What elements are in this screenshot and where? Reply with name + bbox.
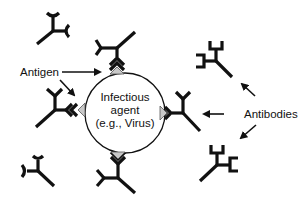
- bound-antibody-bottom: [97, 152, 135, 193]
- free-antibody-bottom-left: [22, 156, 54, 186]
- antigen-triangle-left: [78, 103, 85, 117]
- center-label-line3: (e.g., Virus): [95, 117, 154, 129]
- antigen-label: Antigen: [20, 66, 59, 78]
- center-label-line2: agent: [111, 104, 141, 116]
- antibodies-label: Antibodies: [244, 108, 298, 120]
- antigen-arrow-left-icon: [60, 80, 74, 95]
- bound-antibody-left: [36, 89, 77, 127]
- free-antibody-top-right: [196, 41, 232, 77]
- antibodies-arrow-up-icon: [242, 84, 255, 96]
- antibodies-arrow-down-icon: [241, 125, 256, 138]
- center-label-line1: Infectious: [100, 91, 149, 103]
- free-antibody-top-left: [37, 13, 69, 44]
- bound-antibody-top: [96, 32, 135, 70]
- antibody-antigen-diagram: Infectious agent (e.g., Virus) Antigen A…: [0, 0, 306, 202]
- free-antibody-bottom-right: [200, 145, 238, 181]
